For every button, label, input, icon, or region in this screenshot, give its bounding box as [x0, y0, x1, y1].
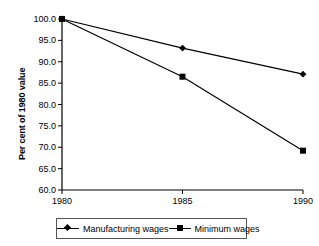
x-tick-label: 1980: [42, 196, 82, 206]
legend-square-icon: [169, 224, 191, 233]
x-axis-tick-labels: 198019851990: [0, 0, 319, 246]
legend-diamond-icon: [57, 224, 79, 233]
legend-item-label: Manufacturing wages: [83, 224, 169, 234]
line-chart: Per cent of 1980 value 60.065.070.075.08…: [0, 0, 319, 246]
legend-item-label: Minimum wages: [195, 224, 260, 234]
legend: Manufacturing wagesMinimum wages: [56, 218, 247, 239]
legend-item[interactable]: Manufacturing wages: [57, 224, 169, 234]
x-tick-label: 1985: [163, 196, 203, 206]
x-tick-label: 1990: [283, 196, 319, 206]
legend-item[interactable]: Minimum wages: [169, 224, 260, 234]
